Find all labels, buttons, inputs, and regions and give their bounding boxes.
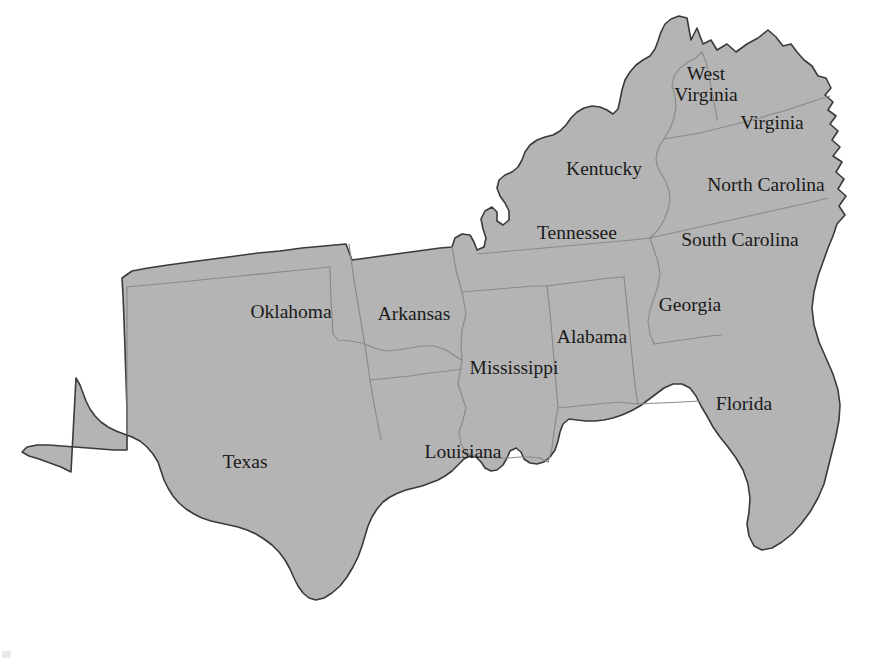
state-label-virginia: Virginia	[740, 112, 804, 133]
state-label-line: Louisiana	[425, 441, 502, 462]
state-label-line: Oklahoma	[250, 301, 332, 322]
state-label-kentucky: Kentucky	[566, 158, 642, 179]
corner-artifact	[2, 651, 11, 658]
state-label-arkansas: Arkansas	[378, 303, 451, 324]
state-label-line: Mississippi	[470, 357, 559, 378]
state-label-florida: Florida	[716, 393, 773, 414]
state-label-line: Kentucky	[566, 158, 642, 179]
state-label-line: Alabama	[557, 326, 628, 347]
state-label-oklahoma: Oklahoma	[250, 301, 332, 322]
state-label-line: North Carolina	[707, 174, 825, 195]
state-label-tennessee: Tennessee	[537, 222, 617, 243]
state-label-line: Arkansas	[378, 303, 451, 324]
state-label-line: South Carolina	[681, 229, 799, 250]
southern-us-map: TexasOklahomaArkansasLouisianaMississipp…	[0, 0, 870, 662]
state-label-line: Tennessee	[537, 222, 617, 243]
state-label-line: Florida	[716, 393, 773, 414]
state-label-line: Georgia	[659, 294, 722, 315]
state-label-mississippi: Mississippi	[470, 357, 559, 378]
state-label-north-carolina: North Carolina	[707, 174, 825, 195]
map-root: TexasOklahomaArkansasLouisianaMississipp…	[0, 0, 870, 662]
state-label-line: Virginia	[674, 84, 738, 105]
state-label-alabama: Alabama	[557, 326, 628, 347]
state-label-louisiana: Louisiana	[425, 441, 502, 462]
state-label-line: West	[687, 63, 726, 84]
state-label-line: Virginia	[740, 112, 804, 133]
state-label-line: Texas	[222, 451, 267, 472]
state-label-texas: Texas	[222, 451, 267, 472]
state-label-georgia: Georgia	[659, 294, 722, 315]
state-label-south-carolina: South Carolina	[681, 229, 799, 250]
